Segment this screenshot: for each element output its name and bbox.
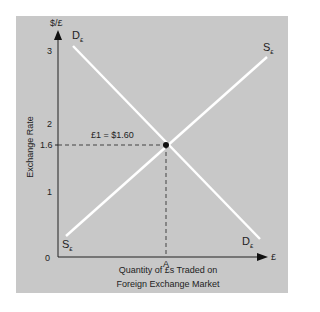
demand-label-sub-2: £ — [250, 243, 253, 249]
demand-label-bottom: D£ — [242, 236, 253, 249]
demand-label-main-2: D — [242, 235, 250, 247]
supply-label-sub-2: £ — [69, 246, 72, 252]
equilibrium-annotation: £1 = $1.60 — [91, 131, 134, 140]
y-tick-0: 0 — [45, 254, 50, 263]
supply-label-bottom: S£ — [62, 239, 73, 252]
demand-label-sub: £ — [80, 37, 83, 43]
y-axis-title: Exchange Rate — [25, 102, 35, 192]
y-tick-1: 1 — [47, 188, 52, 197]
equilibrium-point — [163, 142, 169, 148]
demand-label-main: D — [72, 29, 80, 41]
supply-label-sub: £ — [270, 49, 273, 55]
x-axis-title: Quantity of £s Traded on Foreign Exchang… — [98, 263, 238, 291]
x-axis-arrow-icon — [257, 253, 268, 261]
x-axis-title-line-1: Quantity of £s Traded on — [98, 263, 238, 277]
supply-label-top: S£ — [263, 42, 274, 55]
y-unit-label: $/£ — [50, 19, 63, 28]
y-axis-arrow-icon — [54, 30, 62, 40]
y-tick-2: 2 — [47, 120, 52, 129]
x-unit-label: £ — [271, 253, 276, 262]
y-tick-1-6: 1.6 — [40, 141, 53, 150]
x-axis-title-line-2: Foreign Exchange Market — [98, 277, 238, 291]
y-tick-3: 3 — [47, 47, 52, 56]
demand-label-top: D£ — [72, 30, 83, 43]
